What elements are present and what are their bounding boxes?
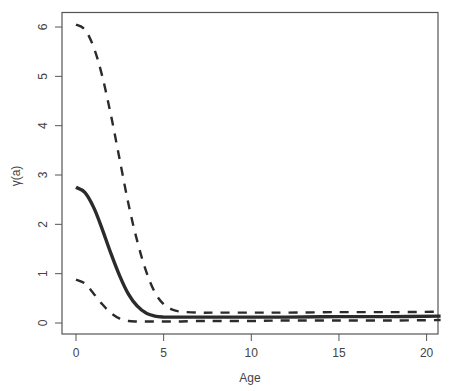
- plot-frame: [62, 13, 438, 335]
- y-tick-label: 5: [36, 73, 50, 80]
- x-tick-label: 5: [160, 346, 167, 360]
- plot-area: [76, 25, 441, 322]
- y-tick-label: 3: [36, 171, 50, 178]
- x-tick-label: 10: [245, 346, 259, 360]
- x-axis: 05101520: [73, 334, 434, 360]
- x-axis-label: Age: [239, 371, 261, 385]
- y-tick-label: 6: [36, 23, 50, 30]
- y-axis-label: γ(a): [9, 166, 23, 187]
- y-tick-label: 0: [36, 319, 50, 326]
- x-tick-label: 0: [73, 346, 80, 360]
- x-tick-label: 15: [332, 346, 346, 360]
- y-tick-label: 2: [36, 221, 50, 228]
- upper-bound-line: [76, 25, 441, 313]
- y-tick-label: 4: [36, 122, 50, 129]
- x-tick-label: 20: [420, 346, 434, 360]
- y-tick-label: 1: [36, 270, 50, 277]
- estimate-line: [76, 187, 441, 317]
- y-axis: 0123456: [36, 23, 62, 326]
- chart: 05101520 0123456 Age γ(a): [0, 0, 453, 391]
